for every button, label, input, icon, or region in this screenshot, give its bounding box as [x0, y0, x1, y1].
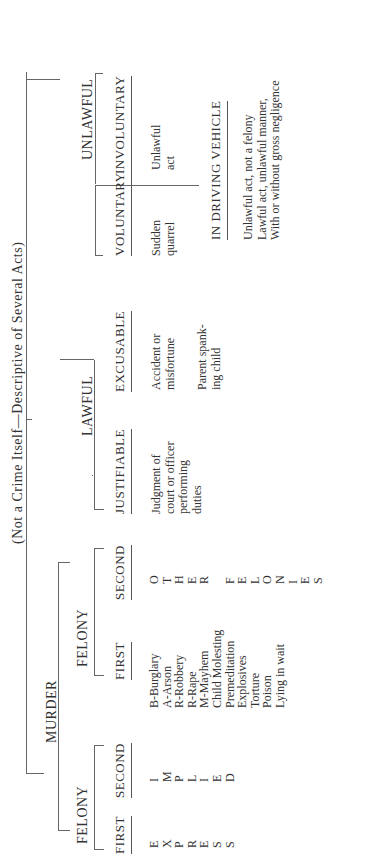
felony-left-second-header: SECOND: [112, 743, 132, 798]
unlawful-divider: [95, 185, 199, 186]
felony-left-tick-b: [94, 745, 104, 746]
felony-right-first-header: FIRST: [112, 642, 132, 680]
unlawful-bracket-left: [95, 186, 96, 256]
unlawful-tick-right: [95, 73, 103, 74]
lawful-tick-a: [94, 509, 104, 510]
felony-left-first-header: FIRST: [112, 816, 132, 854]
murder-bracket-tick-right: [58, 562, 70, 563]
root-bracket-tick-center: [26, 419, 32, 420]
root-bracket-tick-unlawful: [26, 79, 60, 80]
felony-left-tick-a: [94, 849, 104, 850]
voluntary-text: Sudden quarrel: [150, 220, 177, 256]
excusable-header: EXCUSABLE: [112, 311, 132, 392]
driving-vehicle-header: IN DRIVING VEHICLE: [208, 101, 228, 240]
chart-title: (Not a Crime Itself—Descriptive of Sever…: [10, 242, 26, 544]
felony-left-label: FELONY: [75, 786, 91, 844]
excusable-text: Accident or misfortune: [150, 334, 177, 390]
felony-right-tick-a: [94, 675, 104, 676]
felony-right-label: FELONY: [75, 609, 91, 667]
first-degree-list: B-Burglary A-Arson R-Robbery R-Rape M-Ma…: [148, 630, 287, 708]
other-felonies-letters: O T H E R F E L O N I E S: [148, 575, 324, 584]
unlawful-bracket-right: [95, 74, 96, 184]
felony-right-tick-b: [94, 548, 104, 549]
lawful-tick-b: [60, 359, 94, 360]
lawful-bracket: [94, 360, 95, 510]
felony-right-bracket: [94, 549, 95, 676]
unlawful-tick-left: [95, 255, 103, 256]
involuntary-text: Unlawful act: [150, 125, 177, 170]
homicide-classification-chart: (Not a Crime Itself—Descriptive of Sever…: [0, 0, 368, 856]
root-bracket-tick-murder: [26, 773, 44, 774]
driving-vehicle-text: Unlawful act, not a felony Lawful act, u…: [242, 81, 283, 241]
lawful-bracket-anchor: [92, 475, 93, 476]
felony-right-second-header: SECOND: [112, 545, 132, 600]
murder-bracket-line: [58, 563, 59, 831]
justifiable-text: Judgment of court or officer performing …: [150, 442, 204, 514]
voluntary-header: VOLUNTARY: [112, 172, 132, 256]
murder-bracket-tick-left: [58, 830, 70, 831]
root-bracket-line: [26, 72, 27, 774]
justifiable-header: JUSTIFIABLE: [112, 429, 132, 514]
involuntary-header: INVOLUNTARY: [112, 76, 132, 174]
excusable-text-2: Parent spank- ing child: [196, 324, 223, 390]
express-letters: E X P R E S S: [148, 839, 236, 848]
felony-left-bracket: [94, 746, 95, 850]
implied-letters: I M P L I E D: [148, 771, 236, 782]
unlawful-label: UNLAWFUL: [80, 79, 96, 160]
